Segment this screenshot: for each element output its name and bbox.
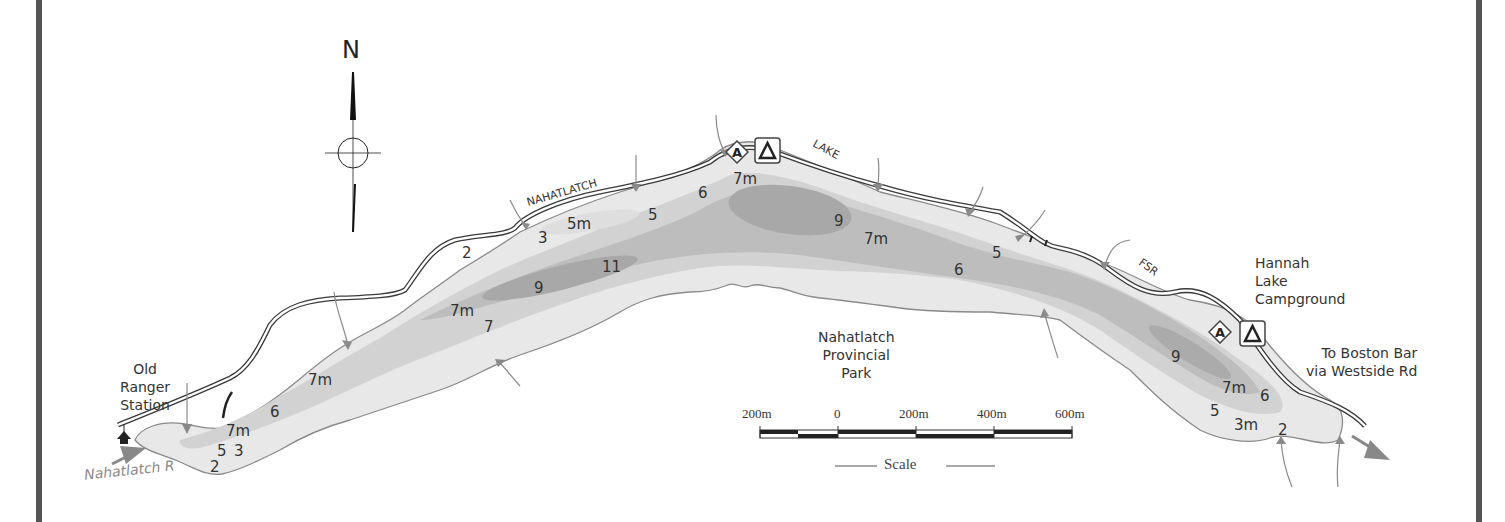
label-line: To Boston Bar [1306, 344, 1417, 362]
label-line: Provincial [818, 346, 895, 364]
scale-tick-200m-left: 200m [742, 406, 772, 422]
depth-label: 2 [210, 458, 220, 476]
depth-label: 7m [226, 422, 250, 440]
scale-tick-400m: 400m [977, 406, 1007, 422]
road-label-lake: LAKE [811, 137, 842, 162]
depth-label: 7m [308, 371, 332, 389]
depth-label: 5m [567, 215, 591, 233]
scale-tick-200m: 200m [899, 406, 929, 422]
depth-label: 7m [1222, 379, 1246, 397]
boat-launch-icon-hannah: A [1208, 320, 1232, 348]
depth-label: 6 [270, 403, 280, 421]
depth-label: 7 [484, 318, 494, 336]
campground-icon-hannah [1239, 320, 1266, 351]
campground-icon [754, 137, 781, 168]
svg-text:A: A [732, 145, 742, 160]
depth-label: 5 [992, 244, 1002, 262]
depth-label: 3 [538, 229, 548, 247]
depth-label: 5 [217, 442, 227, 460]
depth-label: 7m [450, 302, 474, 320]
label-line: Old [120, 360, 170, 378]
depth-label: 9 [1171, 348, 1181, 366]
label-hannah-lake-campground: Hannah Lake Campground [1255, 254, 1345, 308]
depth-label: 6 [1260, 387, 1270, 405]
depth-label: 7m [733, 170, 757, 188]
depth-label: 7m [864, 230, 888, 248]
label-line: Campground [1255, 290, 1345, 308]
depth-label: 3m [1234, 416, 1258, 434]
depth-label: 2 [1278, 421, 1288, 439]
depth-label: 9 [834, 212, 844, 230]
depth-label: 3 [234, 442, 244, 460]
north-label: N [342, 36, 360, 64]
depth-label: 6 [954, 261, 964, 279]
label-line: Park [818, 364, 895, 382]
scale-tick-0: 0 [834, 406, 841, 422]
road-label-fsr: FSR [1136, 256, 1161, 279]
depth-label: 11 [602, 258, 621, 276]
label-line: Lake [1255, 272, 1345, 290]
label-line: Station [120, 396, 170, 414]
scale-tick-600m: 600m [1055, 406, 1085, 422]
label-provincial-park: Nahatlatch Provincial Park [818, 328, 895, 382]
svg-text:A: A [1215, 325, 1225, 340]
label-old-ranger-station: Old Ranger Station [120, 360, 170, 414]
label-line: via Westside Rd [1306, 362, 1417, 380]
depth-label: 5 [1210, 402, 1220, 420]
label-to-boston-bar: To Boston Bar via Westside Rd [1306, 344, 1417, 380]
depth-label: 9 [534, 279, 544, 297]
boat-launch-icon: A [725, 140, 749, 168]
scale-title: Scale [884, 456, 916, 473]
depth-label: 2 [462, 244, 472, 262]
label-line: Hannah [1255, 254, 1345, 272]
river-outflow-arrow [1352, 436, 1390, 460]
north-arrow-compass [325, 72, 381, 232]
depth-label: 6 [698, 184, 708, 202]
label-line: Nahatlatch [818, 328, 895, 346]
depth-label: 5 [648, 206, 658, 224]
label-line: Ranger [120, 378, 170, 396]
